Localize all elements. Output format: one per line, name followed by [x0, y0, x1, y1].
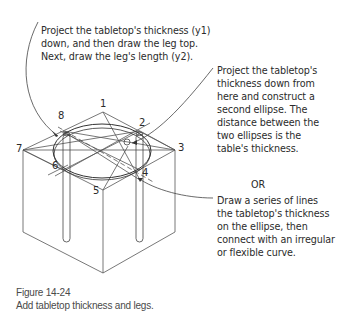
point-label-3: 3: [178, 142, 184, 153]
point-label-8: 8: [58, 110, 64, 121]
or-label: OR: [251, 179, 265, 190]
ellipse-annotation-line: distance between the: [217, 116, 319, 129]
point-label-5: 5: [93, 185, 99, 196]
lines-annotation-line: Draw a series of lines: [217, 194, 335, 207]
leg-annotation-line: Project the tabletop's thickness (y1): [41, 24, 210, 37]
point-label-2: 2: [139, 117, 145, 128]
ellipse-annotation-line: here and construct a: [217, 90, 319, 103]
lines-annotation-line: on the ellipse, then: [217, 220, 335, 233]
figure-caption: Add tabletop thickness and legs.: [16, 300, 154, 311]
ellipse-annotation-line: two ellipses is the: [217, 129, 319, 142]
lines-annotation: Draw a series of lines the tabletop's th…: [217, 194, 335, 259]
figure-number: Figure 14-24: [16, 287, 70, 298]
lines-annotation-line: connect with an irregular: [217, 233, 335, 246]
ellipse-annotation-line: Project the tabletop's: [217, 64, 319, 77]
ellipse-annotation: Project the tabletop's thickness down fr…: [217, 64, 319, 155]
point-label-7: 7: [16, 143, 22, 154]
point-label-4: 4: [142, 167, 148, 178]
lines-annotation-line: or flexible curve.: [217, 246, 335, 259]
point-label-1: 1: [100, 98, 106, 109]
point-label-6: 6: [52, 160, 58, 171]
leg-annotation-line: Next, draw the leg's length (y2).: [41, 50, 210, 63]
ellipse-annotation-line: second ellipse. The: [217, 103, 319, 116]
leg-annotation-line: down, and then draw the leg top.: [41, 37, 210, 50]
ellipse-annotation-line: thickness down from: [217, 77, 319, 90]
ellipse-annotation-line: table's thickness.: [217, 142, 319, 155]
leg-annotation: Project the tabletop's thickness (y1) do…: [41, 24, 210, 63]
lines-annotation-line: the tabletop's thickness: [217, 207, 335, 220]
